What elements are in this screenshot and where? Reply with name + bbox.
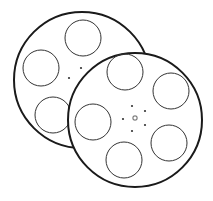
front-reel-icon: [68, 53, 202, 187]
reel-dot: [80, 67, 82, 69]
reel-dot: [122, 118, 124, 120]
reel-dot: [131, 130, 133, 132]
reel-dot: [68, 77, 70, 79]
film-reels-illustration: [0, 0, 213, 201]
reel-dot: [131, 105, 133, 107]
reel-dot: [144, 110, 146, 112]
reel-dot: [144, 124, 146, 126]
